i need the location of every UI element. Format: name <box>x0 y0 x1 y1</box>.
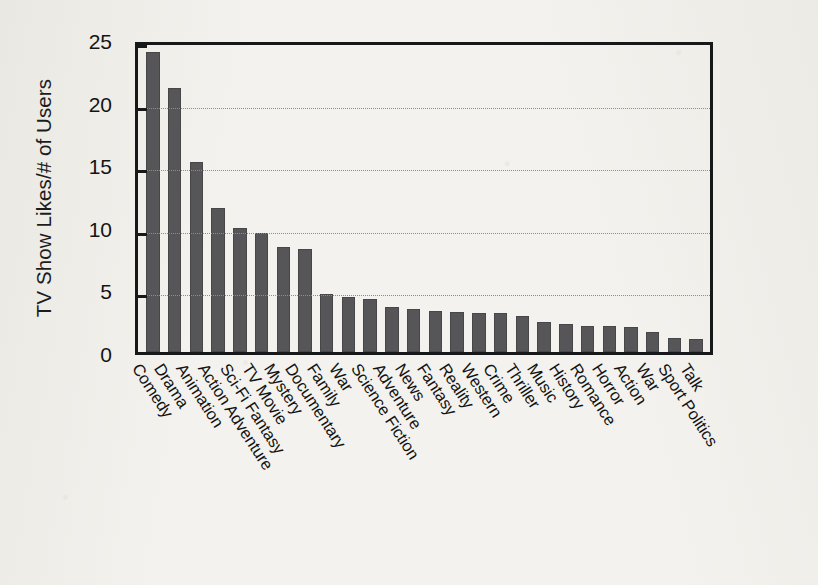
bar-slot <box>403 45 425 352</box>
bar[interactable] <box>537 322 550 352</box>
bar-slot <box>490 45 512 352</box>
bar[interactable] <box>298 249 311 352</box>
plot-area <box>135 42 713 355</box>
gridline <box>138 108 710 109</box>
bar[interactable] <box>668 338 681 352</box>
bar[interactable] <box>429 311 442 352</box>
bar-slot <box>511 45 533 352</box>
bar[interactable] <box>450 312 463 352</box>
bar[interactable] <box>494 313 507 352</box>
bar-slot <box>316 45 338 352</box>
y-axis-tick-label: 0 <box>100 343 112 367</box>
bar-slot <box>359 45 381 352</box>
bar[interactable] <box>581 326 594 352</box>
bar-slot <box>577 45 599 352</box>
bar[interactable] <box>190 162 203 352</box>
y-axis-tick-label: 5 <box>100 280 112 304</box>
y-axis-tick-label: 10 <box>89 218 112 242</box>
bar[interactable] <box>320 294 333 352</box>
bar-chart-figure: TV Show Likes/# of Users 0510152025 Come… <box>0 0 818 585</box>
bar-slot <box>620 45 642 352</box>
y-axis-tick-label: 15 <box>89 155 112 179</box>
x-axis-tick-labels: ComedyDramaAnimationAction AdventureSci-… <box>135 360 713 570</box>
bar[interactable] <box>603 326 616 352</box>
gridline <box>138 170 710 171</box>
bars-layer <box>138 45 710 352</box>
bar-slot <box>251 45 273 352</box>
bar[interactable] <box>211 208 224 352</box>
bar[interactable] <box>407 309 420 352</box>
bar-slot <box>642 45 664 352</box>
bar-slot <box>294 45 316 352</box>
bar[interactable] <box>689 339 702 352</box>
bar-slot <box>338 45 360 352</box>
bar-slot <box>425 45 447 352</box>
bar-slot <box>229 45 251 352</box>
bar[interactable] <box>363 299 376 352</box>
y-axis-tick-mark <box>138 233 147 236</box>
bar[interactable] <box>255 233 268 352</box>
bar-slot <box>185 45 207 352</box>
bar-slot <box>664 45 686 352</box>
bar[interactable] <box>233 228 246 352</box>
bar-slot <box>164 45 186 352</box>
y-axis-tick-label: 20 <box>89 93 112 117</box>
y-axis-tick-mark <box>138 170 147 173</box>
bar[interactable] <box>559 324 572 352</box>
bar-slot <box>468 45 490 352</box>
bar-slot <box>381 45 403 352</box>
bar[interactable] <box>342 297 355 352</box>
bar[interactable] <box>472 313 485 352</box>
y-axis-tick-label: 25 <box>89 30 112 54</box>
gridline <box>138 295 710 296</box>
y-axis-tick-mark <box>138 108 147 111</box>
bar-slot <box>272 45 294 352</box>
bar-slot <box>533 45 555 352</box>
gridline <box>138 233 710 234</box>
bar[interactable] <box>624 327 637 352</box>
bar[interactable] <box>385 307 398 352</box>
bar[interactable] <box>168 88 181 352</box>
y-axis-tick-mark <box>138 295 147 298</box>
y-axis-tick-labels: 0510152025 <box>0 42 128 355</box>
bar-slot <box>598 45 620 352</box>
bar[interactable] <box>277 247 290 352</box>
bar-slot <box>446 45 468 352</box>
bar[interactable] <box>146 52 159 352</box>
bar-slot <box>207 45 229 352</box>
bar[interactable] <box>646 332 659 352</box>
bar-slot <box>685 45 707 352</box>
bar-slot <box>142 45 164 352</box>
bar[interactable] <box>516 316 529 352</box>
y-axis-tick-mark <box>138 45 147 48</box>
bar-slot <box>555 45 577 352</box>
